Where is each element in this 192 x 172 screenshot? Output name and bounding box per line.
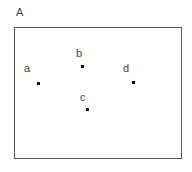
point-b-label: b [76, 48, 82, 59]
point-b-marker [81, 65, 84, 68]
point-d-label: d [123, 63, 129, 74]
point-a-label: a [24, 63, 30, 74]
panel-label: A [16, 6, 23, 18]
diagram-frame [14, 27, 182, 159]
point-a-marker [37, 82, 40, 85]
point-c-label: c [80, 92, 86, 103]
point-c-marker [86, 108, 89, 111]
point-d-marker [132, 81, 135, 84]
